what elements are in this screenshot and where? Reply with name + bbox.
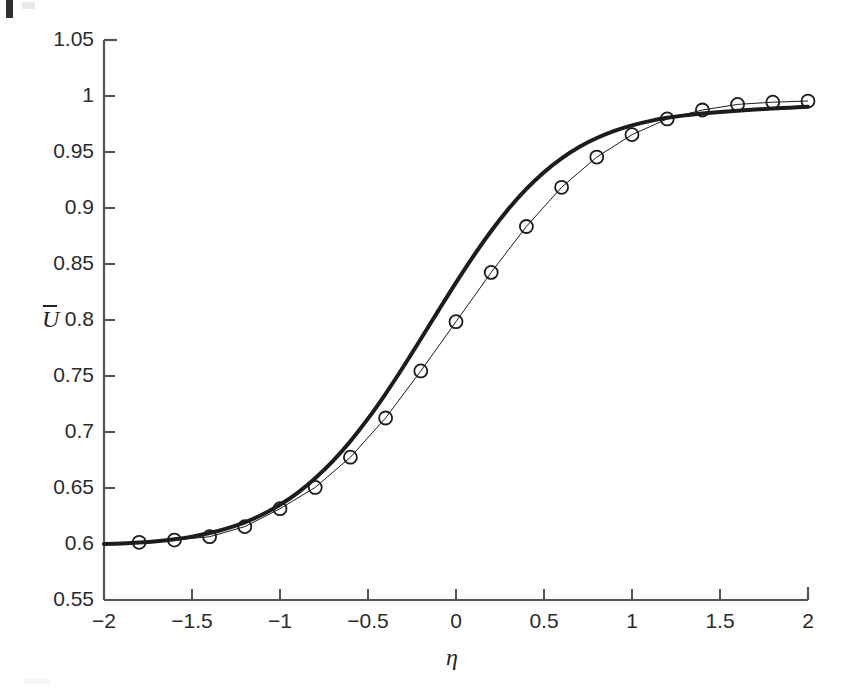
x-tick-label: −2	[64, 609, 144, 633]
x-axis-title: η	[446, 644, 458, 671]
overbar	[43, 305, 57, 307]
y-tick-label: 1	[82, 83, 94, 107]
x-tick-label: 0	[416, 609, 496, 633]
y-tick-label: 0.55	[53, 587, 94, 611]
y-tick-label: 0.8	[65, 307, 94, 331]
x-tick-label: 0.5	[504, 609, 584, 633]
y-tick-label: 0.95	[53, 139, 94, 163]
y-tick-label: 0.75	[53, 363, 94, 387]
x-tick-label: −1	[240, 609, 320, 633]
y-tick-label: 1.05	[53, 27, 94, 51]
x-tick-label: 2	[768, 609, 848, 633]
x-tick-label: −1.5	[152, 609, 232, 633]
y-axis-title-glyph: U	[42, 307, 59, 331]
y-tick-label: 0.9	[65, 195, 94, 219]
figure-container: 0.550.60.650.70.750.80.850.90.9511.05 −2…	[0, 0, 851, 688]
x-tick-label: 1.5	[680, 609, 760, 633]
y-tick-label: 0.7	[65, 419, 94, 443]
chart-plot	[0, 0, 851, 688]
x-tick-label: 1	[592, 609, 672, 633]
x-tick-label: −0.5	[328, 609, 408, 633]
y-tick-label: 0.65	[53, 475, 94, 499]
y-tick-label: 0.85	[53, 251, 94, 275]
data-markers	[133, 95, 815, 549]
y-tick-label: 0.6	[65, 531, 94, 555]
y-axis-title: U	[42, 306, 59, 333]
